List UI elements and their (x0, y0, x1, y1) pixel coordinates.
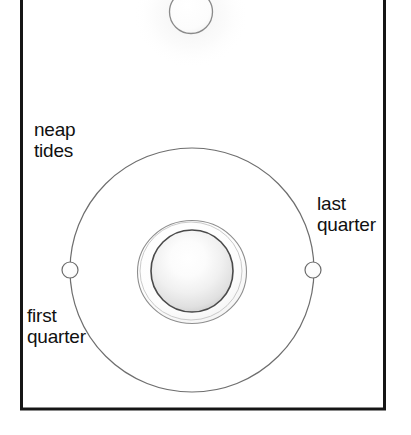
label-last-quarter: last quarter (317, 193, 376, 235)
moon-last-quarter-icon (305, 262, 321, 278)
diagram-canvas: neap tides last quarter first quarter (0, 0, 411, 435)
moon-first-quarter-icon (62, 262, 78, 278)
earth-sphere (151, 230, 233, 312)
label-neap-tides: neap tides (34, 119, 75, 161)
label-first-quarter: first quarter (27, 305, 86, 347)
